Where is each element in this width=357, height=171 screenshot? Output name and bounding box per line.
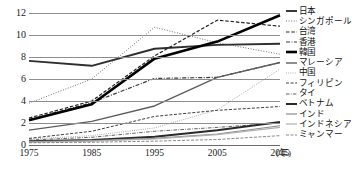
legend-line-icon bbox=[286, 100, 297, 108]
legend-line-icon bbox=[286, 79, 297, 87]
legend-line-icon bbox=[286, 28, 297, 36]
legend-item[interactable]: ベトナム bbox=[286, 99, 357, 109]
legend-line-icon bbox=[286, 38, 297, 46]
legend-line-icon bbox=[286, 17, 297, 25]
legend-label: マレーシア bbox=[299, 58, 343, 67]
legend-line-icon bbox=[286, 59, 297, 67]
y-tick-label: 2 bbox=[2, 118, 26, 128]
y-tick-label: 8 bbox=[2, 52, 26, 62]
x-axis-line bbox=[29, 145, 280, 146]
legend-label: タイ bbox=[299, 89, 317, 98]
y-tick-label: 12 bbox=[2, 8, 26, 18]
legend-label: ベトナム bbox=[299, 99, 334, 108]
x-tick-label: 1995 bbox=[135, 148, 175, 158]
legend-line-icon bbox=[286, 110, 297, 118]
x-tick-label: 2005 bbox=[197, 148, 237, 158]
legend-item[interactable]: 香港 bbox=[286, 37, 357, 47]
legend-item[interactable]: マレーシア bbox=[286, 57, 357, 67]
plot-area bbox=[29, 13, 280, 145]
series-line bbox=[29, 44, 280, 66]
legend-line-icon bbox=[286, 131, 297, 139]
series-line bbox=[29, 27, 280, 103]
legend-item[interactable]: 中国 bbox=[286, 68, 357, 78]
legend-line-icon bbox=[286, 48, 297, 56]
gridline bbox=[29, 57, 280, 58]
x-axis-unit-label: (年) bbox=[276, 148, 291, 158]
x-tick-label: 1975 bbox=[9, 148, 49, 158]
gridline bbox=[29, 101, 280, 102]
legend-line-icon bbox=[286, 7, 297, 15]
series-line bbox=[29, 15, 280, 120]
legend-item[interactable]: 台湾 bbox=[286, 27, 357, 37]
gridline bbox=[29, 79, 280, 80]
gridline bbox=[29, 13, 280, 14]
x-tick-label: 1985 bbox=[72, 148, 112, 158]
legend-line-icon bbox=[286, 90, 297, 98]
legend-item[interactable]: 韓国 bbox=[286, 47, 357, 57]
legend-label: フィリピン bbox=[299, 79, 343, 88]
series-line bbox=[29, 63, 280, 131]
y-axis-labels: 024681012 bbox=[0, 0, 26, 160]
legend-label: ミャンマー bbox=[299, 130, 343, 139]
legend-label: シンガポール bbox=[299, 17, 352, 26]
legend-item[interactable]: ミャンマー bbox=[286, 130, 357, 140]
y-tick-label: 4 bbox=[2, 96, 26, 106]
legend-item[interactable]: シンガポール bbox=[286, 16, 357, 26]
gridline bbox=[29, 35, 280, 36]
legend-line-icon bbox=[286, 69, 297, 77]
legend-label: 中国 bbox=[299, 68, 317, 77]
y-tick-label: 6 bbox=[2, 74, 26, 84]
legend-label: 香港 bbox=[299, 38, 317, 47]
gridline bbox=[29, 123, 280, 124]
legend-item[interactable]: フィリピン bbox=[286, 78, 357, 88]
legend-line-icon bbox=[286, 120, 297, 128]
legend-item[interactable]: タイ bbox=[286, 88, 357, 98]
y-tick-label: 10 bbox=[2, 30, 26, 40]
legend-label: 日本 bbox=[299, 7, 317, 16]
legend: 日本シンガポール台湾香港韓国マレーシア中国フィリピンタイベトナムインドインドネシ… bbox=[286, 6, 357, 140]
legend-label: 台湾 bbox=[299, 27, 317, 36]
line-chart: 024681012 19751985199520052015 (年) 日本シンガ… bbox=[0, 0, 357, 171]
legend-item[interactable]: インド bbox=[286, 109, 357, 119]
legend-item[interactable]: インドネシア bbox=[286, 119, 357, 129]
legend-label: インドネシア bbox=[299, 120, 352, 129]
legend-label: インド bbox=[299, 110, 325, 119]
legend-label: 韓国 bbox=[299, 48, 317, 57]
legend-item[interactable]: 日本 bbox=[286, 6, 357, 16]
